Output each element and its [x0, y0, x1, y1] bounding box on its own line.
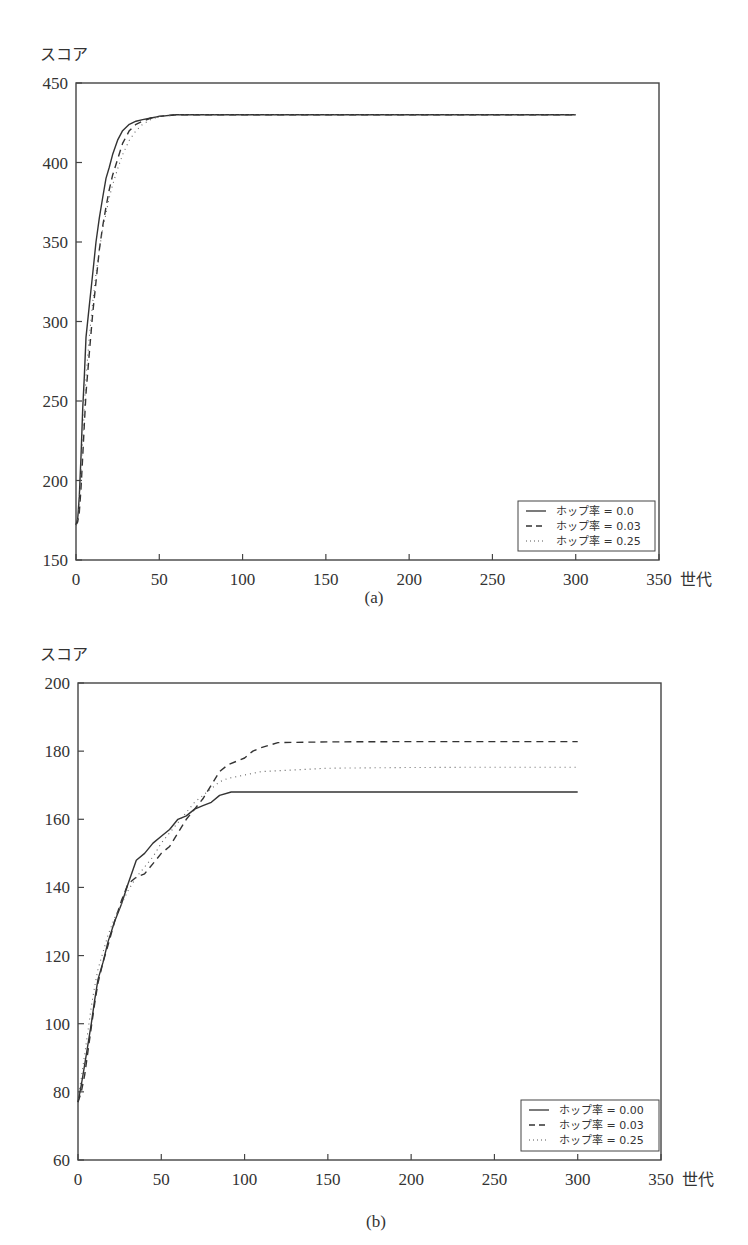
y-tick-label: 100: [45, 1015, 71, 1034]
plot-frame-a: [76, 83, 659, 560]
caption-a: (a): [365, 588, 384, 607]
x-tick-label: 300: [563, 570, 589, 589]
y-tick-label: 120: [45, 947, 71, 966]
legend-a: ホップ率 = 0.0 ホップ率 = 0.03 ホップ率 = 0.25: [518, 501, 655, 551]
series-line-dotted: [78, 767, 578, 1098]
x-axis-title-b: 世代: [682, 1170, 714, 1189]
y-tick-label: 200: [45, 674, 71, 693]
series-lines-b: [78, 742, 578, 1103]
x-tick-label: 350: [648, 1170, 674, 1189]
y-tick-label: 300: [43, 313, 69, 332]
y-tick-label: 160: [45, 810, 71, 829]
y-tick-label: 200: [43, 472, 69, 491]
y-axis-title-a: スコア: [40, 45, 88, 64]
x-tick-label: 350: [646, 570, 672, 589]
legend-label-a-2: ホップ率 = 0.25: [556, 534, 641, 548]
x-axis-ticks-a: 050100150200250300350: [72, 554, 672, 589]
legend-label-a-1: ホップ率 = 0.03: [556, 519, 641, 533]
y-tick-label: 140: [45, 878, 71, 897]
x-tick-label: 250: [482, 1170, 508, 1189]
x-axis-title-a: 世代: [680, 570, 712, 589]
chart-b: スコア 6080100120140160180200 0501001502002…: [40, 645, 714, 1231]
x-tick-label: 200: [398, 1170, 424, 1189]
series-lines-a: [76, 115, 576, 525]
y-tick-label: 150: [43, 551, 69, 570]
series-line-solid: [78, 792, 578, 1102]
series-line-dashed: [78, 742, 578, 1103]
legend-label-b-0: ホップ率 = 0.00: [559, 1103, 644, 1117]
y-tick-label: 60: [53, 1151, 70, 1170]
series-line-solid: [76, 115, 576, 525]
x-tick-label: 150: [315, 1170, 341, 1189]
x-tick-label: 300: [565, 1170, 591, 1189]
x-axis-ticks-b: 050100150200250300350: [74, 1154, 674, 1189]
series-line-dotted: [76, 115, 576, 525]
y-axis-title-b: スコア: [40, 645, 88, 664]
y-tick-label: 80: [53, 1083, 70, 1102]
plot-frame-b: [78, 683, 661, 1160]
x-tick-label: 50: [153, 1170, 170, 1189]
x-tick-label: 250: [480, 570, 506, 589]
legend-b: ホップ率 = 0.00 ホップ率 = 0.03 ホップ率 = 0.25: [521, 1100, 659, 1151]
y-tick-label: 400: [43, 154, 69, 173]
y-tick-label: 350: [43, 233, 69, 252]
chart-a: スコア 150200250300350400450 05010015020025…: [40, 45, 712, 607]
figure: スコア 150200250300350400450 05010015020025…: [0, 0, 748, 1245]
x-tick-label: 150: [313, 570, 339, 589]
caption-b: (b): [366, 1212, 386, 1231]
y-tick-label: 180: [45, 742, 71, 761]
legend-label-b-1: ホップ率 = 0.03: [559, 1118, 644, 1132]
y-tick-label: 250: [43, 392, 69, 411]
x-tick-label: 50: [151, 570, 168, 589]
x-tick-label: 100: [230, 570, 256, 589]
x-tick-label: 200: [396, 570, 422, 589]
series-line-dashed: [76, 115, 576, 525]
x-tick-label: 0: [74, 1170, 83, 1189]
x-tick-label: 0: [72, 570, 81, 589]
x-tick-label: 100: [232, 1170, 258, 1189]
legend-label-b-2: ホップ率 = 0.25: [559, 1133, 644, 1147]
legend-label-a-0: ホップ率 = 0.0: [556, 504, 634, 518]
y-tick-label: 450: [43, 74, 69, 93]
